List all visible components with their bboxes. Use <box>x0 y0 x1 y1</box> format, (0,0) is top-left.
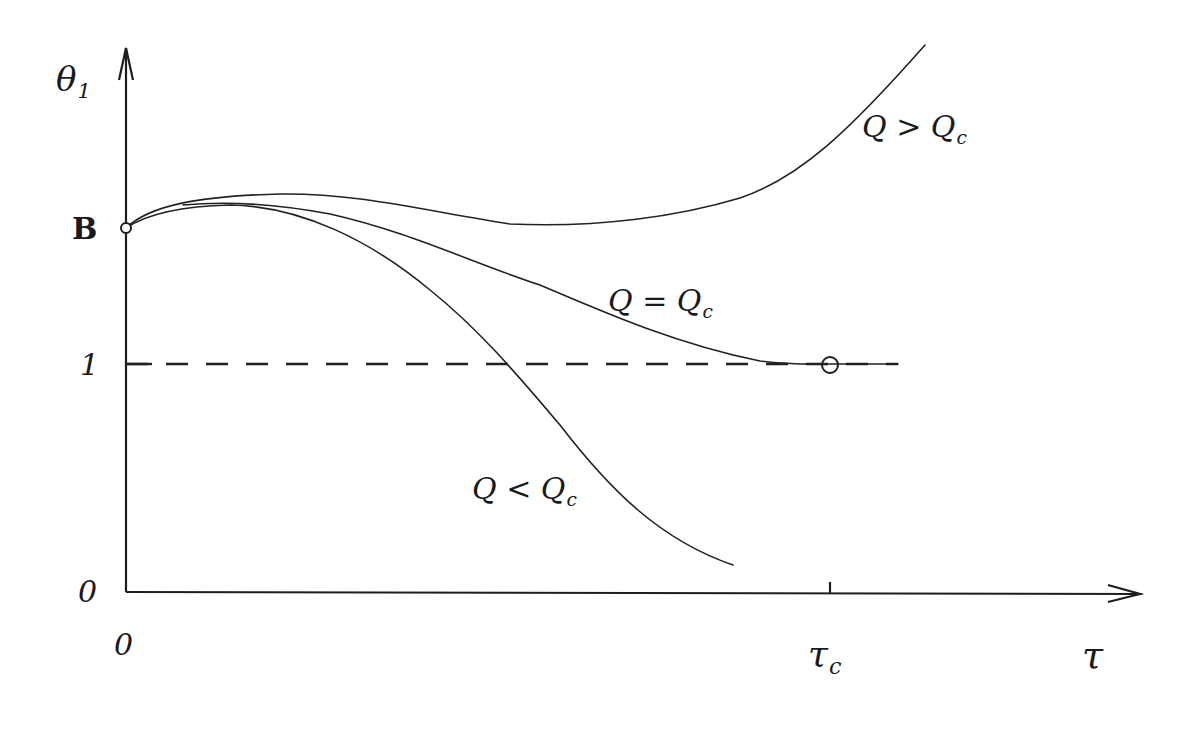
annotation-q-less: Q < Qc <box>472 474 577 504</box>
x-tick-tau-c-sub: c <box>829 653 842 679</box>
point-b-marker-icon <box>121 223 131 233</box>
y-axis-label-main: θ <box>56 59 76 99</box>
y-axis-label-sub: 1 <box>77 78 90 103</box>
x-axis <box>126 582 1142 602</box>
annotation-q-equal: Q = Qc <box>608 286 713 316</box>
x-tick-tau-c: τc <box>808 636 841 672</box>
annotation-q-less-main: Q < Q <box>472 471 565 506</box>
y-tick-zero: 0 <box>78 577 97 607</box>
x-axis-label: τ <box>1082 636 1103 674</box>
annotation-q-greater-sub: c <box>956 127 966 148</box>
annotation-q-less-sub: c <box>566 489 576 510</box>
x-tick-tau-c-main: τ <box>808 633 828 674</box>
curve-q-equal <box>183 203 898 364</box>
y-tick-one: 1 <box>80 350 99 380</box>
annotation-q-equal-main: Q = Q <box>608 283 701 318</box>
annotation-q-equal-sub: c <box>702 301 712 322</box>
y-tick-b: B <box>72 214 97 244</box>
annotation-q-greater-main: Q > Q <box>862 109 955 144</box>
chart-canvas <box>0 0 1198 730</box>
curve-q-greater <box>126 45 925 228</box>
y-axis-label: θ1 <box>56 62 91 96</box>
curve-q-less <box>126 205 733 565</box>
y-axis <box>119 48 133 592</box>
annotation-q-greater: Q > Qc <box>862 112 967 142</box>
x-tick-zero: 0 <box>114 630 133 660</box>
